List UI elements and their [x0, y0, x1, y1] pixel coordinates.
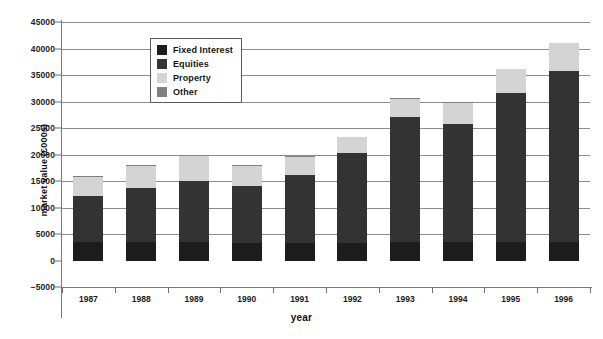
x-axis-tick-label: 1991 [290, 294, 309, 304]
x-axis-tick-label: 1996 [554, 294, 573, 304]
y-axis-tick-mark [55, 260, 61, 261]
bar-segment-property[interactable] [285, 157, 315, 176]
x-axis-tick-label: 1994 [449, 294, 468, 304]
bar-segment-equities[interactable] [285, 175, 315, 243]
bar-segment-fixed-interest[interactable] [390, 242, 420, 260]
bar-segment-fixed-interest[interactable] [73, 242, 103, 260]
y-axis-title: market value (£000s) [39, 90, 49, 250]
y-axis-tick-label: 45000 [31, 17, 55, 27]
y-axis-tick-label: 40000 [31, 44, 55, 54]
bar-segment-property[interactable] [549, 43, 579, 71]
bar-segment-other[interactable] [285, 156, 315, 157]
bar-1995[interactable] [496, 22, 526, 261]
bar-segment-equities[interactable] [126, 188, 156, 242]
bar-segment-other[interactable] [232, 165, 262, 166]
bar-segment-property[interactable] [126, 166, 156, 188]
legend-swatch-icon [157, 87, 167, 97]
chart-legend: Fixed InterestEquitiesPropertyOther [150, 38, 242, 103]
bar-1994[interactable] [443, 22, 473, 261]
bar-segment-equities[interactable] [337, 153, 367, 243]
bar-segment-property[interactable] [443, 103, 473, 124]
bar-segment-equities[interactable] [496, 93, 526, 242]
bar-1993[interactable] [390, 22, 420, 261]
x-axis-tick-label: 1993 [396, 294, 415, 304]
x-axis-tick-label: 1988 [132, 294, 151, 304]
y-axis-tick-label: 35000 [31, 70, 55, 80]
y-axis-tick-mark [55, 154, 61, 155]
x-axis-tick-mark [168, 287, 169, 293]
bar-segment-equities[interactable] [179, 181, 209, 242]
bar-segment-property[interactable] [73, 177, 103, 196]
y-axis-tick-mark [55, 101, 61, 102]
y-axis-tick-label: −5000 [31, 282, 55, 292]
x-axis-tick-label: 1995 [501, 294, 520, 304]
legend-item[interactable]: Equities [157, 57, 233, 70]
bar-segment-fixed-interest[interactable] [285, 243, 315, 260]
bar-1991[interactable] [285, 22, 315, 261]
y-axis-tick-mark [55, 128, 61, 129]
bar-segment-fixed-interest[interactable] [549, 242, 579, 261]
y-axis-tick-mark [55, 48, 61, 49]
bar-1987[interactable] [73, 22, 103, 261]
legend-item-label: Other [173, 87, 198, 97]
x-axis-tick-label: 1992 [343, 294, 362, 304]
x-axis-tick-mark [432, 287, 433, 293]
x-axis-tick-label: 1987 [79, 294, 98, 304]
legend-item-label: Fixed Interest [173, 45, 233, 55]
legend-swatch-icon [157, 59, 167, 69]
x-axis-title: year [0, 312, 603, 323]
bar-segment-property[interactable] [179, 155, 209, 181]
y-axis-tick-mark [55, 75, 61, 76]
bar-segment-equities[interactable] [443, 124, 473, 243]
bar-chart: 4500040000350003000025000200001500010000… [0, 0, 603, 339]
x-axis-tick-mark [220, 287, 221, 293]
bar-segment-equities[interactable] [232, 186, 262, 243]
x-axis-tick-mark [273, 287, 274, 293]
legend-item-label: Equities [173, 59, 209, 69]
bar-segment-property[interactable] [337, 137, 367, 154]
cropped-title-strip [0, 0, 603, 8]
x-axis-tick-mark [590, 287, 591, 293]
bar-segment-fixed-interest[interactable] [179, 242, 209, 260]
bar-segment-other[interactable] [443, 102, 473, 103]
bar-segment-fixed-interest[interactable] [126, 242, 156, 260]
legend-item[interactable]: Fixed Interest [157, 43, 233, 56]
legend-swatch-icon [157, 45, 167, 55]
x-axis-tick-mark [62, 287, 63, 293]
bar-segment-other[interactable] [390, 98, 420, 99]
x-axis-tick-label: 1989 [185, 294, 204, 304]
bar-segment-fixed-interest[interactable] [337, 243, 367, 260]
bar-segment-property[interactable] [232, 166, 262, 187]
x-axis-tick-mark [537, 287, 538, 293]
plot-area [62, 22, 590, 287]
legend-item[interactable]: Other [157, 85, 233, 98]
x-axis-tick-mark [484, 287, 485, 293]
bar-segment-fixed-interest[interactable] [232, 243, 262, 260]
bar-segment-property[interactable] [390, 98, 420, 117]
x-axis-tick-mark [115, 287, 116, 293]
bar-segment-fixed-interest[interactable] [496, 242, 526, 261]
bar-1996[interactable] [549, 22, 579, 261]
bar-segment-equities[interactable] [549, 71, 579, 242]
legend-item[interactable]: Property [157, 71, 233, 84]
x-axis-tick-mark [379, 287, 380, 293]
y-axis-tick-mark [55, 287, 61, 288]
bar-1992[interactable] [337, 22, 367, 261]
bar-segment-property[interactable] [496, 69, 526, 93]
y-axis-title-wrap: market value (£000s) [16, 0, 30, 339]
legend-item-label: Property [173, 73, 211, 83]
bar-segment-other[interactable] [126, 165, 156, 167]
y-axis-tick-mark [55, 207, 61, 208]
bar-segment-equities[interactable] [73, 196, 103, 243]
legend-swatch-icon [157, 73, 167, 83]
bar-segment-fixed-interest[interactable] [443, 242, 473, 260]
x-axis-tick-label: 1990 [237, 294, 256, 304]
bar-segment-other[interactable] [179, 155, 209, 156]
y-axis-tick-mark [55, 234, 61, 235]
bar-segment-other[interactable] [73, 176, 103, 178]
y-axis-tick-mark [55, 181, 61, 182]
bar-segment-equities[interactable] [390, 117, 420, 242]
x-axis-tick-mark [326, 287, 327, 293]
y-axis-tick-mark [55, 22, 61, 23]
